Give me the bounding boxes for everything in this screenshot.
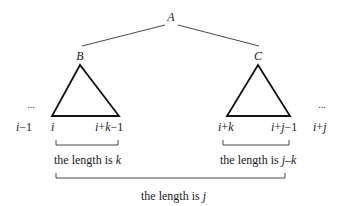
index-i-minus-1: i−1 <box>16 120 32 134</box>
index-i-plus-k: i+k <box>218 120 234 134</box>
label-length-j: the length is j <box>141 189 207 203</box>
index-i-plus-k-minus-1: i+k−1 <box>95 120 123 134</box>
index-i-plus-j-minus-1: i+j−1 <box>271 120 297 134</box>
node-a: A <box>166 10 175 24</box>
index-i: i <box>51 120 54 134</box>
subtree-c-triangle <box>227 65 290 116</box>
bracket-length-j <box>56 173 285 178</box>
subtree-b-triangle <box>52 65 119 116</box>
index-i-plus-j: i+j <box>313 120 327 134</box>
tree-diagram: A B C ... ... i−1 i i+k−1 i+k i+j−1 i+j … <box>0 0 344 206</box>
edge-a-b <box>82 25 165 46</box>
node-c: C <box>254 49 263 63</box>
node-b: B <box>76 49 84 63</box>
bracket-length-k <box>56 140 118 145</box>
ellipsis-right: ... <box>318 99 326 110</box>
label-length-j-minus-k: the length is j–k <box>220 153 297 167</box>
ellipsis-left: ... <box>27 99 35 110</box>
bracket-length-j-minus-k <box>223 140 289 145</box>
label-length-k: the length is k <box>54 153 122 167</box>
edge-a-c <box>178 25 259 46</box>
